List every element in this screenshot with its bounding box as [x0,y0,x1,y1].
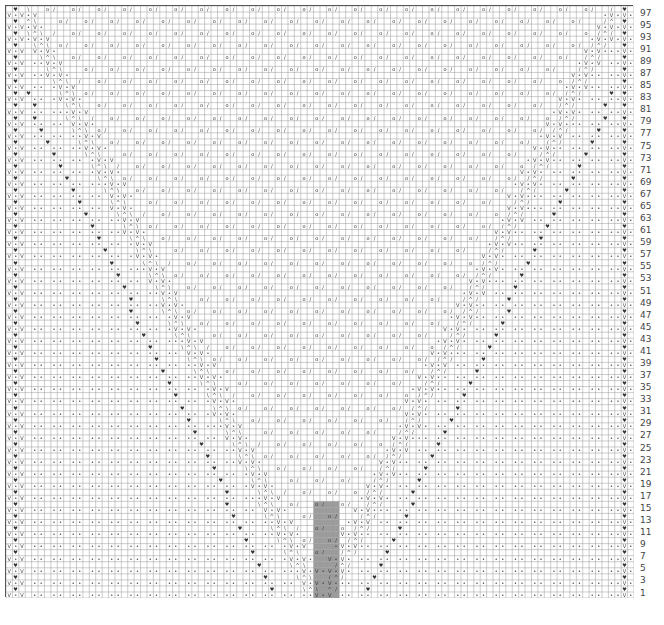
row-number: 49 [640,299,651,308]
row-number: 83 [640,93,651,102]
row-number: 59 [640,238,651,247]
row-number: 41 [640,347,651,356]
row-number: 15 [640,504,651,513]
row-number: 53 [640,274,651,283]
row-number: 35 [640,383,651,392]
row-number: 51 [640,287,651,296]
row-number: 55 [640,262,651,271]
row-number: 23 [640,456,651,465]
row-number: 93 [640,33,651,42]
row-number: 73 [640,154,651,163]
row-number: 87 [640,69,651,78]
row-number: 71 [640,166,651,175]
row-number: 67 [640,190,651,199]
row-number: 39 [640,359,651,368]
row-number: 25 [640,444,651,453]
row-number: 75 [640,142,651,151]
row-number: 85 [640,81,651,90]
row-number: 69 [640,178,651,187]
row-number: 77 [640,129,651,138]
row-number: 33 [640,395,651,404]
row-number: 97 [640,9,651,18]
row-number: 65 [640,202,651,211]
row-number: 13 [640,516,651,525]
row-number: 7 [640,552,646,561]
row-number: 81 [640,105,651,114]
row-number: 57 [640,250,651,259]
row-number: 37 [640,371,651,380]
row-number: 27 [640,431,651,440]
chart-canvas [6,6,634,598]
knitting-chart-grid [5,5,633,597]
row-number: 63 [640,214,651,223]
row-number: 21 [640,468,651,477]
row-number: 45 [640,323,651,332]
row-number: 1 [640,589,646,598]
row-number: 91 [640,45,651,54]
row-number: 19 [640,480,651,489]
row-number: 61 [640,226,651,235]
row-number: 5 [640,564,646,573]
row-number: 95 [640,21,651,30]
row-number: 17 [640,492,651,501]
row-number: 11 [640,528,651,537]
row-number: 3 [640,576,646,585]
row-number: 43 [640,335,651,344]
row-number: 31 [640,407,651,416]
row-number: 9 [640,540,646,549]
row-number: 79 [640,117,651,126]
row-number: 29 [640,419,651,428]
row-number: 47 [640,311,651,320]
row-number: 89 [640,57,651,66]
